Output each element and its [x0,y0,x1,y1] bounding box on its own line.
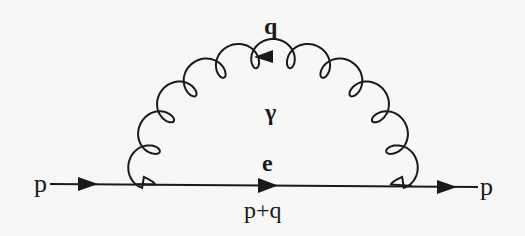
internal-momentum-label: p+q [244,197,282,223]
outgoing-arrow-icon [437,180,457,194]
incoming-arrow-icon [78,177,98,191]
photon-momentum-label: q [264,13,278,39]
incoming-label: p [34,169,47,198]
internal-arrow-icon [258,178,278,193]
outgoing-label: p [480,172,493,201]
photon-symbol-label: γ [264,99,276,125]
feynman-diagram: p p q γ e p+q [0,0,525,236]
internal-fermion-label: e [262,150,273,176]
photon-arrow-icon [254,50,273,63]
